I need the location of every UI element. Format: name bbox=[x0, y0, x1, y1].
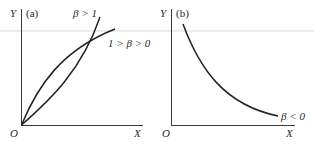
panel-b-y-label: Y bbox=[160, 7, 168, 19]
panel-b-curve-label-beta-lt-0: β < 0 bbox=[280, 110, 305, 122]
panel-b: Y (b) O X β < 0 bbox=[160, 7, 305, 139]
panel-b-decreasing-curve bbox=[183, 24, 278, 116]
panel-a-curve-label-beta-between-0-1: 1 > β > 0 bbox=[108, 37, 151, 49]
panel-a-x-label: X bbox=[133, 127, 142, 139]
panel-b-x-label: X bbox=[285, 127, 294, 139]
panel-a: Y (a) O X β > 1 1 > β > 0 bbox=[10, 7, 151, 139]
panel-a-y-label: Y bbox=[10, 7, 18, 19]
power-function-diagram: Y (a) O X β > 1 1 > β > 0 Y (b) O X β < … bbox=[0, 0, 314, 147]
panel-a-origin-label: O bbox=[10, 127, 18, 139]
panel-a-label: (a) bbox=[26, 7, 39, 20]
panel-b-origin-label: O bbox=[162, 127, 170, 139]
panel-a-curve-label-beta-gt-1: β > 1 bbox=[72, 7, 97, 19]
panel-a-convex-curve bbox=[22, 17, 101, 125]
panel-b-label: (b) bbox=[176, 7, 189, 20]
